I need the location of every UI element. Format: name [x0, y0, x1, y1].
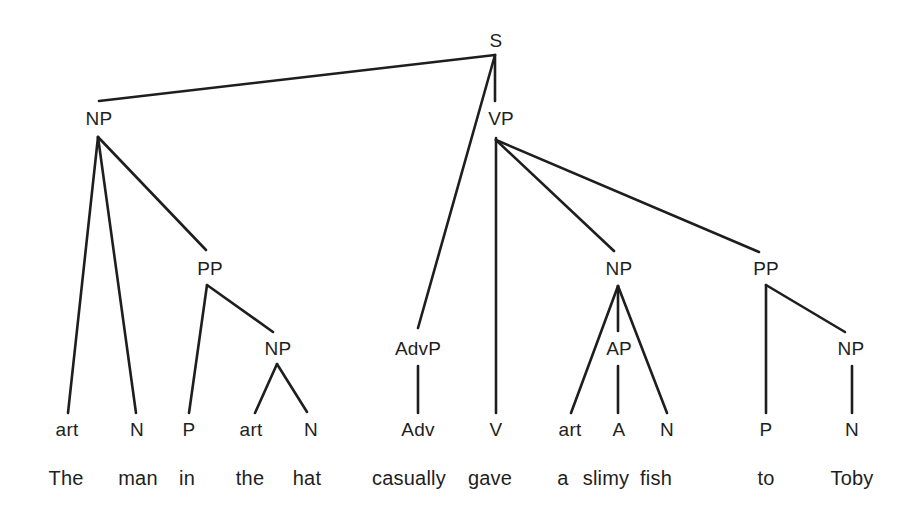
edge-vp-pp2: [496, 140, 759, 252]
category-node-v: V: [490, 420, 503, 439]
phrase-node-vp: VP: [488, 109, 514, 128]
category-node-adv: Adv: [401, 420, 434, 439]
phrase-node-np1: NP: [86, 109, 113, 128]
edge-np1-pp1: [98, 137, 206, 250]
category-node-n3: N: [660, 420, 674, 439]
phrase-node-np3: NP: [606, 259, 633, 278]
phrase-node-s: S: [490, 31, 503, 50]
category-node-art3: art: [559, 420, 582, 439]
edge-pp2-np4: [766, 285, 845, 332]
edge-s-advp: [418, 55, 495, 328]
phrase-node-np4: NP: [838, 339, 865, 358]
word-hat: hat: [293, 468, 321, 488]
word-casually: casually: [372, 468, 446, 488]
phrase-node-pp2: PP: [753, 259, 779, 278]
edge-np1-art1: [68, 137, 98, 413]
category-node-n1: N: [130, 420, 144, 439]
edge-s-np1: [99, 55, 495, 101]
category-node-n2: N: [304, 420, 318, 439]
edge-np1-n1: [98, 137, 136, 413]
edge-np2-n2: [277, 364, 307, 412]
word-fish: fish: [640, 468, 672, 488]
category-node-n4: N: [845, 420, 859, 439]
word-the: the: [236, 468, 264, 488]
edge-pp1-p1: [189, 285, 207, 413]
word-man: man: [118, 468, 158, 488]
phrase-node-np2: NP: [265, 339, 292, 358]
word-to: to: [757, 468, 774, 488]
word-slimy: slimy: [583, 468, 630, 488]
word-toby: Toby: [830, 468, 873, 488]
edge-vp-np3: [496, 140, 614, 251]
phrase-node-pp1: PP: [197, 259, 223, 278]
phrase-node-ap: AP: [606, 339, 632, 358]
word-gave: gave: [468, 468, 512, 488]
category-node-art2: art: [240, 420, 263, 439]
edge-np2-art2: [255, 364, 277, 413]
edge-pp1-np2: [207, 285, 273, 332]
phrase-node-advp: AdvP: [395, 339, 441, 358]
word-the: The: [48, 468, 83, 488]
word-a: a: [557, 468, 568, 488]
category-node-p1: P: [183, 420, 196, 439]
word-in: in: [179, 468, 195, 488]
category-node-a: A: [613, 420, 626, 439]
category-node-art1: art: [56, 420, 79, 439]
category-node-p2: P: [760, 420, 773, 439]
